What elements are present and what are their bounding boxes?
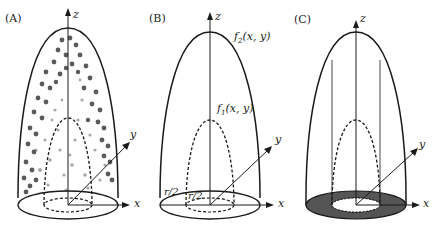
outer-radius-label: r/2 — [164, 186, 179, 197]
panel-c-graphic — [290, 0, 436, 235]
panel-a: (A) z x y — [0, 0, 146, 235]
panel-c-label: (C) — [294, 13, 311, 26]
panel-a-graphic — [0, 0, 146, 235]
y-axis-label: y — [419, 138, 425, 151]
z-axis-label: z — [73, 8, 79, 21]
x-arrow-icon — [412, 202, 420, 208]
y-axis-label: y — [130, 128, 136, 141]
x-arrow-icon — [266, 202, 274, 208]
f1-label: f1(x, y) — [217, 102, 254, 117]
z-axis-label: z — [215, 10, 221, 23]
y-axis-label: y — [275, 133, 281, 146]
z-axis-label: z — [360, 12, 366, 25]
inner-radius-label: r/2 — [188, 190, 203, 201]
z-arrow-icon — [353, 20, 359, 28]
panel-b-label: (B) — [149, 12, 166, 25]
x-axis-label: x — [278, 197, 284, 210]
z-arrow-icon — [207, 12, 213, 20]
panel-c: (C) z x y — [290, 0, 436, 235]
z-arrow-icon — [65, 8, 71, 16]
x-arrow-icon — [122, 202, 130, 208]
f2-label: f2(x, y) — [234, 30, 271, 45]
x-axis-label: x — [423, 197, 429, 210]
x-axis-label: x — [134, 197, 140, 210]
panel-b: (B) z x y f2(x, y) f1(x, y) r/2 r/2 — [144, 0, 290, 235]
panel-a-label: (A) — [5, 12, 22, 25]
